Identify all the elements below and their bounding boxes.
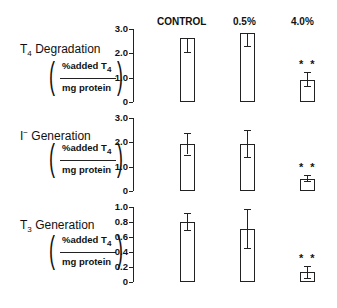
- error-cap-bottom: [304, 181, 311, 182]
- y-tick: [129, 102, 133, 103]
- y-tick-label: 0: [98, 96, 128, 107]
- y-axis: [133, 207, 134, 282]
- left-paren: (: [49, 138, 55, 178]
- y-tick-label: 0.8: [98, 216, 128, 227]
- y-axis: [133, 118, 134, 191]
- bar-control: [180, 222, 195, 282]
- y-tick-label: 0.4: [98, 246, 128, 257]
- y-tick-label: 1.0: [98, 201, 128, 212]
- y-tick: [129, 237, 133, 238]
- y-axis: [133, 29, 134, 102]
- error-cap-bottom: [184, 155, 191, 156]
- error-cap-top: [184, 213, 191, 214]
- y-tick-label: 1.0: [98, 161, 128, 172]
- column-header-4-0: 4.0%: [291, 16, 314, 27]
- error-cap-bottom: [184, 230, 191, 231]
- error-bar: [247, 33, 248, 46]
- y-tick: [129, 29, 133, 30]
- significance-marker: * *: [299, 252, 317, 264]
- y-tick-label: 2.0: [98, 47, 128, 58]
- error-cap-top: [184, 38, 191, 39]
- panel-title: T4 Degradation: [20, 42, 101, 58]
- y-tick-label: 0: [98, 276, 128, 287]
- error-cap-top: [184, 133, 191, 134]
- y-tick: [129, 78, 133, 79]
- error-cap-bottom: [244, 157, 251, 158]
- error-cap-top: [304, 266, 311, 267]
- y-tick-label: 3.0: [98, 112, 128, 123]
- error-cap-bottom: [244, 248, 251, 249]
- y-tick: [129, 222, 133, 223]
- error-cap-bottom: [244, 46, 251, 47]
- error-cap-bottom: [184, 52, 191, 53]
- significance-marker: * *: [299, 161, 317, 173]
- error-bar: [247, 209, 248, 247]
- y-tick-label: 1.0: [98, 72, 128, 83]
- y-tick-label: 3.0: [98, 23, 128, 34]
- column-header-0-5: 0.5%: [233, 16, 256, 27]
- error-bar: [187, 133, 188, 154]
- y-tick: [129, 282, 133, 283]
- left-paren: (: [49, 230, 55, 270]
- error-cap-top: [244, 209, 251, 210]
- error-bar: [307, 266, 308, 278]
- error-bar: [307, 72, 308, 87]
- y-tick: [129, 118, 133, 119]
- y-tick: [129, 252, 133, 253]
- y-tick: [129, 191, 133, 192]
- error-cap-top: [244, 130, 251, 131]
- y-tick: [129, 267, 133, 268]
- unit-denominator: mg protein: [62, 82, 111, 93]
- y-tick-label: 0: [98, 185, 128, 196]
- y-tick: [129, 142, 133, 143]
- y-tick-label: 2.0: [98, 136, 128, 147]
- significance-marker: * *: [299, 58, 317, 70]
- y-tick-label: 0.6: [98, 231, 128, 242]
- y-tick-label: 0.2: [98, 261, 128, 272]
- error-bar: [187, 213, 188, 230]
- error-bar: [247, 130, 248, 157]
- error-cap-top: [304, 175, 311, 176]
- y-tick: [129, 207, 133, 208]
- error-cap-top: [304, 72, 311, 73]
- error-cap-top: [244, 33, 251, 34]
- error-cap-bottom: [304, 278, 311, 279]
- left-paren: (: [49, 56, 55, 96]
- y-tick: [129, 167, 133, 168]
- error-cap-bottom: [304, 86, 311, 87]
- column-header-control: CONTROL: [157, 16, 206, 27]
- y-tick: [129, 53, 133, 54]
- error-bar: [187, 38, 188, 53]
